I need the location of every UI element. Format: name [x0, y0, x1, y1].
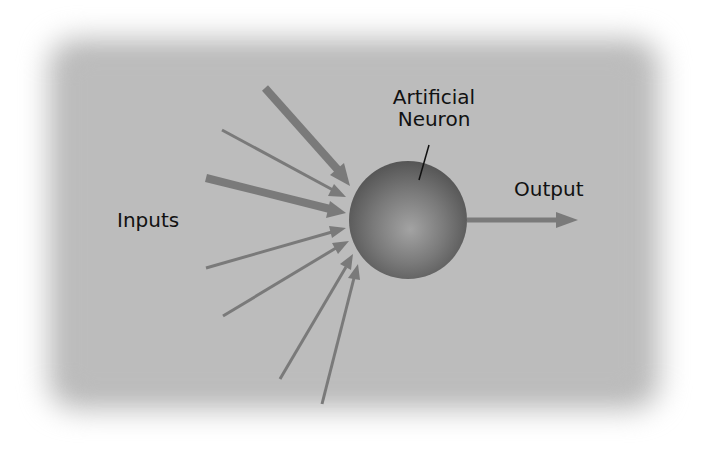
- neuron-sphere: [349, 161, 467, 279]
- neuron-label-line2: Neuron: [380, 108, 488, 130]
- inputs-label: Inputs: [117, 209, 179, 231]
- input-arrow-6: [280, 254, 353, 379]
- input-arrow-5: [223, 241, 349, 316]
- input-arrow-4: [206, 226, 346, 268]
- input-arrow-7: [322, 264, 360, 404]
- neuron-diagram: [0, 0, 706, 451]
- neuron-label-line1: Artificial: [380, 86, 488, 108]
- neuron-label: Artificial Neuron: [380, 86, 488, 130]
- output-arrow: [467, 212, 578, 228]
- input-arrow-1: [265, 88, 350, 186]
- input-arrows: [206, 88, 360, 404]
- output-label: Output: [514, 178, 583, 200]
